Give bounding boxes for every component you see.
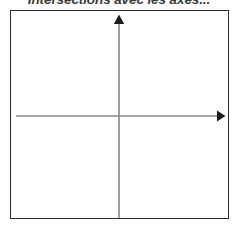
figure-title: Intersections avec les axes... (0, 0, 238, 7)
figure-canvas: Intersections avec les axes... (0, 0, 238, 225)
coordinate-axes (11, 11, 230, 220)
plot-frame (10, 10, 229, 219)
y-axis-arrow-icon (114, 15, 124, 25)
figure-title-clip: Intersections avec les axes... (0, 0, 238, 9)
x-axis-arrow-icon (217, 111, 226, 122)
